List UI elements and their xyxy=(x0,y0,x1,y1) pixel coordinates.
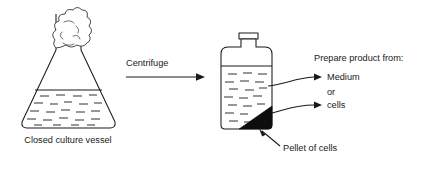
product-option-conjunction: or xyxy=(327,87,335,97)
medium-callout-arrowhead xyxy=(314,74,322,81)
centrifuge-step-label: Centrifuge xyxy=(126,58,168,68)
bottle-cap xyxy=(239,33,258,39)
pellet-callout-line xyxy=(262,131,280,146)
centrifuge-bottle-group xyxy=(221,33,272,129)
centrifuge-arrow-head xyxy=(196,73,205,81)
figure-canvas: Closed culture vessel Centrifuge xyxy=(0,0,431,173)
pellet-caption: Pellet of cells xyxy=(283,143,338,153)
bioprocess-diagram: Closed culture vessel Centrifuge xyxy=(0,0,431,173)
culture-flask-caption: Closed culture vessel xyxy=(24,135,111,145)
callout-group: Prepare product from: Medium or cells Pe… xyxy=(259,53,403,153)
centrifuge-step-group: Centrifuge xyxy=(126,58,205,81)
product-heading: Prepare product from: xyxy=(314,53,403,63)
cells-callout-line xyxy=(272,105,314,113)
culture-flask-group: Closed culture vessel xyxy=(22,8,115,146)
medium-callout-line xyxy=(268,77,314,86)
foam-mass xyxy=(53,8,92,49)
cells-callout-arrowhead xyxy=(314,102,322,109)
product-option-medium: Medium xyxy=(327,72,360,82)
product-option-cells: cells xyxy=(327,100,346,110)
